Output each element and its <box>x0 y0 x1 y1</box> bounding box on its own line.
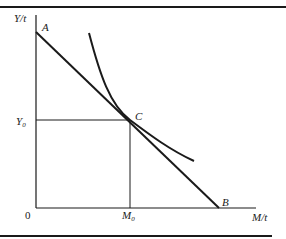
m0-label: M0 <box>121 209 135 223</box>
point-c-label: C <box>135 110 143 122</box>
y-axis-label: Y/t <box>14 12 27 24</box>
point-b-label: B <box>222 196 229 208</box>
y0-label: Y0 <box>16 115 26 129</box>
point-a-label: A <box>41 21 49 33</box>
x-axis-label: M/t <box>251 211 268 223</box>
diagram-canvas: Y/t A C B Y0 M0 0 M/t <box>0 0 286 239</box>
origin-label: 0 <box>25 209 31 221</box>
m0-label-sub: 0 <box>131 215 135 223</box>
y0-label-sub: 0 <box>22 121 26 129</box>
